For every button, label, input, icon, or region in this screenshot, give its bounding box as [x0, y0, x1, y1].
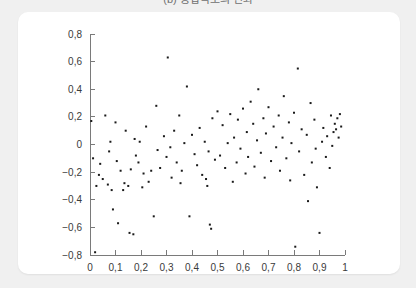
data-point: [199, 127, 201, 129]
data-point: [112, 208, 114, 210]
data-point: [326, 135, 328, 137]
data-point: [310, 102, 312, 104]
data-point: [117, 222, 119, 224]
data-point: [339, 113, 341, 115]
data-point: [111, 189, 113, 191]
x-tick-label: 0,6: [236, 262, 250, 273]
y-tick-label: 0,4: [68, 84, 82, 95]
data-point: [123, 182, 125, 184]
data-point: [298, 150, 300, 152]
data-point: [283, 95, 285, 97]
x-tick-label: 0,8: [287, 262, 301, 273]
data-point: [135, 155, 137, 157]
data-point: [171, 177, 173, 179]
data-point: [334, 123, 336, 125]
data-point: [322, 127, 324, 129]
data-point: [167, 56, 169, 58]
data-point: [313, 119, 315, 121]
data-point: [188, 215, 190, 217]
data-point: [252, 123, 254, 125]
data-point: [270, 160, 272, 162]
data-point: [196, 164, 198, 166]
data-point: [178, 114, 180, 116]
data-point: [116, 160, 118, 162]
data-point: [145, 126, 147, 128]
data-point: [262, 117, 264, 119]
x-tick-label: 1: [342, 262, 348, 273]
chart-card: 0,80,60,40,20−0,2−0,4−0,6−0,800,10,20,30…: [18, 12, 400, 274]
data-point: [159, 167, 161, 169]
x-tick-label: 0,9: [313, 262, 327, 273]
data-point: [191, 134, 193, 136]
data-point: [130, 168, 132, 170]
data-point: [205, 178, 207, 180]
data-point: [92, 157, 94, 159]
y-tick-label: 0,2: [68, 111, 82, 122]
y-tick-label: 0: [76, 139, 82, 150]
data-point: [319, 232, 321, 234]
data-point: [209, 224, 211, 226]
data-point: [315, 148, 317, 150]
data-point: [108, 150, 110, 152]
data-point: [335, 128, 337, 130]
data-point: [256, 139, 258, 141]
data-point: [227, 142, 229, 144]
data-point: [137, 161, 139, 163]
data-point: [236, 161, 238, 163]
data-point: [245, 173, 247, 175]
x-tick-label: 0,2: [134, 262, 148, 273]
data-point: [122, 189, 124, 191]
data-point: [301, 128, 303, 130]
data-point: [217, 110, 219, 112]
data-point: [250, 101, 252, 103]
data-point: [166, 156, 168, 158]
data-point: [180, 182, 182, 184]
data-point: [157, 149, 159, 151]
data-point: [294, 246, 296, 248]
data-point: [150, 170, 152, 172]
y-tick-label: −0,8: [62, 250, 82, 261]
data-point: [242, 108, 244, 110]
data-point: [210, 228, 212, 230]
data-point: [289, 179, 291, 181]
y-tick-label: 0,6: [68, 56, 82, 67]
data-point: [297, 68, 299, 70]
data-point: [139, 141, 141, 143]
data-point: [316, 186, 318, 188]
data-point: [260, 152, 262, 154]
data-point: [214, 159, 216, 161]
data-point: [222, 124, 224, 126]
x-tick-label: 0,4: [185, 262, 199, 273]
data-point: [321, 141, 323, 143]
data-point: [278, 114, 280, 116]
data-point: [163, 135, 165, 137]
data-point: [224, 167, 226, 169]
data-point: [303, 174, 305, 176]
data-point: [338, 137, 340, 139]
data-point: [194, 153, 196, 155]
data-point: [208, 150, 210, 152]
data-point: [141, 186, 143, 188]
y-tick-label: −0,2: [62, 167, 82, 178]
data-point: [107, 184, 109, 186]
data-point: [204, 141, 206, 143]
data-point: [264, 177, 266, 179]
data-point: [330, 114, 332, 116]
data-point: [333, 131, 335, 133]
data-point: [120, 170, 122, 172]
figure-caption: (b) 응답속도의 변화: [0, 0, 416, 6]
y-tick-label: −0,6: [62, 222, 82, 233]
data-point: [325, 156, 327, 158]
x-tick-label: 0: [87, 262, 93, 273]
x-tick-label: 0,3: [160, 262, 174, 273]
data-point: [279, 170, 281, 172]
data-point: [257, 88, 259, 90]
y-tick-label: −0,4: [62, 194, 82, 205]
data-point: [176, 161, 178, 163]
data-point: [232, 181, 234, 183]
data-point: [282, 137, 284, 139]
data-point: [201, 174, 203, 176]
data-point: [102, 178, 104, 180]
data-point: [134, 138, 136, 140]
data-point: [99, 163, 101, 165]
